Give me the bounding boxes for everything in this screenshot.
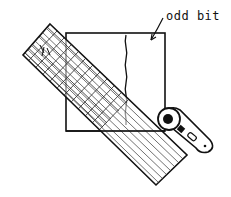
odd-bit-arrow (151, 18, 163, 40)
quilting-ruler (10, 7, 231, 197)
cutter-blade-hub (163, 114, 173, 124)
illustration: odd bit (0, 0, 231, 197)
drawing-canvas (0, 0, 231, 197)
odd-bit-label: odd bit (166, 9, 220, 23)
cutter-end-dot (204, 145, 207, 148)
